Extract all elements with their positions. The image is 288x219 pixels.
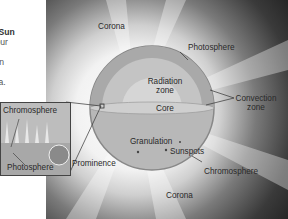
intro-line: e: [0, 67, 46, 77]
sun-diagram: Corona Photosphere Radiation zone Convec…: [46, 0, 288, 219]
label-convection-zone: Convection zone: [232, 94, 280, 112]
label-photosphere: Photosphere: [188, 43, 234, 52]
intro-line: ction: [0, 57, 46, 67]
label-corona-bottom: Corona: [166, 191, 193, 200]
inset-detail-panel: Chromosphere Photosphere: [0, 102, 71, 176]
label-granulation: Granulation: [130, 137, 172, 146]
intro-line: re,: [0, 47, 46, 57]
inset-label-chromosphere: Chromosphere: [3, 106, 57, 115]
sunspot: [165, 149, 167, 151]
earth-scale-icon: [49, 145, 69, 165]
label-core: Core: [156, 104, 174, 113]
label-sunspots: Sunspots: [170, 147, 204, 156]
intro-line: rona.: [0, 77, 46, 87]
sunspot: [179, 141, 181, 143]
label-corona-top: Corona: [98, 22, 125, 31]
inset-label-photosphere: Photosphere: [7, 163, 53, 172]
equator-plane: [90, 102, 214, 114]
intro-title: he Sun: [0, 27, 46, 37]
label-prominence: Prominence: [72, 159, 116, 168]
intro-line: o four: [0, 37, 46, 47]
label-chromosphere: Chromosphere: [204, 167, 258, 176]
label-radiation-zone: Radiation zone: [144, 77, 186, 95]
sunspot: [137, 151, 139, 153]
intro-paragraph: he Sun o four re, ction e rona.: [0, 27, 46, 87]
spicules: [5, 119, 49, 143]
